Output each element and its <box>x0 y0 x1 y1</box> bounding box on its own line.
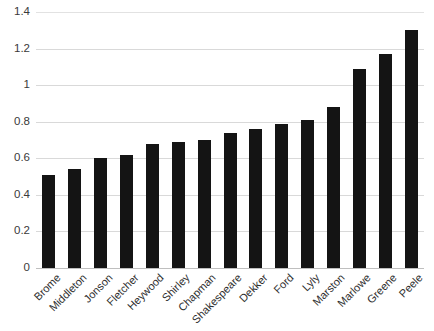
bar <box>405 30 418 268</box>
bar <box>120 155 133 268</box>
bar <box>224 133 237 268</box>
bar <box>68 169 81 268</box>
y-axis-tick-label: 1 <box>0 79 30 91</box>
y-axis-tick-label: 0.6 <box>0 152 30 164</box>
y-axis-tick-label: 1.4 <box>0 6 30 18</box>
bar <box>379 54 392 268</box>
y-axis-tick-label: 0.4 <box>0 189 30 201</box>
x-axis-tick-label: Ford <box>272 272 296 296</box>
bar <box>198 140 211 268</box>
x-axis-tick-label: Dekker <box>237 272 269 304</box>
bar <box>275 124 288 268</box>
bar <box>42 175 55 268</box>
bar <box>301 120 314 268</box>
bar <box>249 129 262 268</box>
bar <box>146 144 159 268</box>
y-axis-tick-label: 0 <box>0 262 30 274</box>
x-axis-tick-label: Peele <box>397 272 425 300</box>
bar <box>353 69 366 268</box>
x-axis: BromeMiddletonJonsonFletcherHeywoodShirl… <box>36 268 434 331</box>
y-axis: 00.20.40.60.811.21.4 <box>0 0 32 331</box>
y-axis-tick-label: 0.2 <box>0 225 30 237</box>
y-axis-tick-label: 0.8 <box>0 116 30 128</box>
bar <box>94 158 107 268</box>
bar <box>172 142 185 268</box>
bar-series <box>36 12 424 268</box>
bar <box>327 107 340 268</box>
bar-chart: 00.20.40.60.811.21.4 BromeMiddletonJonso… <box>0 0 434 331</box>
y-axis-tick-label: 1.2 <box>0 43 30 55</box>
